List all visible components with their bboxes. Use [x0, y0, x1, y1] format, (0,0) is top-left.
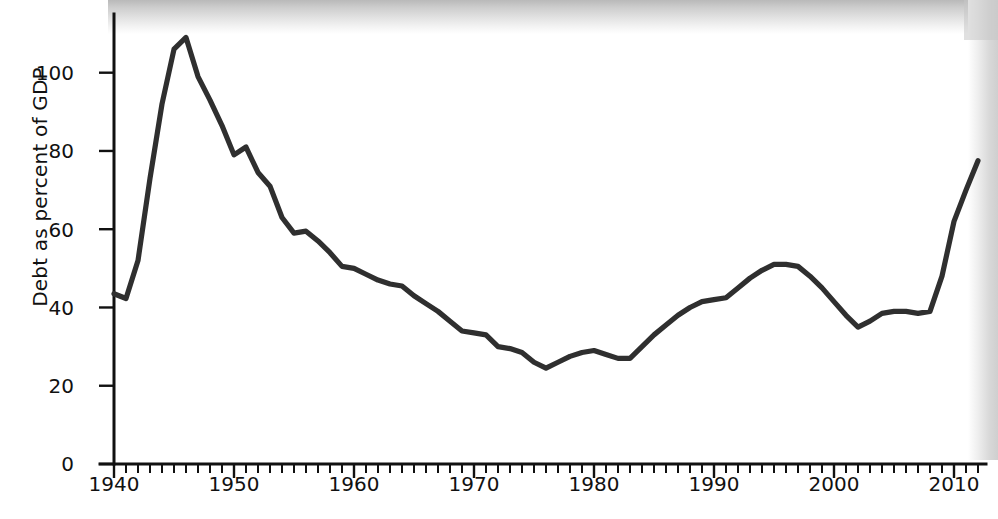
axis-ticks	[99, 73, 978, 478]
data-line-debt-gdp	[114, 37, 978, 368]
plot-area	[0, 0, 998, 519]
debt-gdp-chart-figure: Debt as percent of GDP 0 20 40 60 80 100…	[0, 0, 998, 519]
